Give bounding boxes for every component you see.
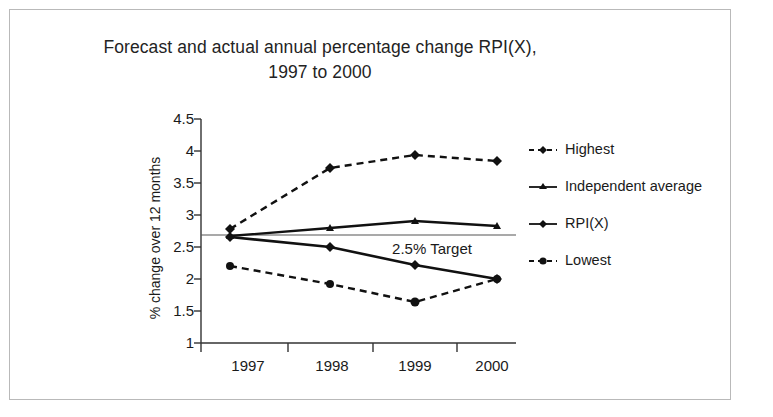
legend-swatch-solid-diamond-icon [528,217,558,231]
series-markers-independent-average [226,217,501,239]
legend-item-lowest[interactable]: Lowest [528,251,718,269]
y-axis-ticks [194,119,201,343]
data-point-marker [492,156,502,166]
legend-label-highest: Highest [565,140,614,158]
y-tick-label: 4 [186,142,194,159]
x-axis-ticks [201,343,457,352]
data-point-marker [225,232,235,242]
legend-label-independent-average: Independent average [565,177,702,195]
legend-swatch-solid-triangle-icon [528,180,558,194]
x-tick-label: 2000 [475,357,508,374]
series-markers-lowest [226,262,501,307]
legend-item-rpix[interactable]: RPI(X) [528,214,718,232]
y-tick-label: 2 [186,270,194,287]
data-point-marker [226,262,234,270]
data-point-marker [410,260,420,270]
series-line-independent-average [230,221,497,236]
chart-legend: Highest Independent average RPI(X) Lowes… [528,140,718,288]
legend-swatch-dashed-diamond-icon [528,143,558,157]
legend-swatch-dashed-circle-icon [528,254,558,268]
legend-label-rpix: RPI(X) [565,214,609,232]
y-tick-label: 1.5 [173,302,194,319]
y-tick-labels: 1 1.5 2 2.5 3 3.5 4 4.5 [173,110,194,351]
series-line-highest [230,155,497,229]
legend-item-highest[interactable]: Highest [528,140,718,158]
y-tick-label: 1 [186,334,194,351]
x-tick-label: 1999 [398,357,431,374]
y-tick-label: 2.5 [173,238,194,255]
x-tick-label: 1998 [315,357,348,374]
target-annotation-label: 2.5% Target [392,240,473,257]
series-markers-highest [225,150,502,234]
y-tick-label: 3.5 [173,174,194,191]
data-point-marker [411,298,420,307]
x-tick-labels: 1997 1998 1999 2000 [231,357,508,374]
data-point-marker [326,280,334,288]
y-axis-title: % change over 12 months [147,157,163,320]
y-tick-label: 4.5 [173,110,194,127]
y-tick-label: 3 [186,206,194,223]
legend-label-lowest: Lowest [565,251,611,269]
data-point-marker [493,275,501,283]
legend-item-independent-average[interactable]: Independent average [528,177,718,195]
data-point-marker [410,150,420,160]
data-point-marker [325,242,335,252]
x-tick-label: 1997 [231,357,264,374]
